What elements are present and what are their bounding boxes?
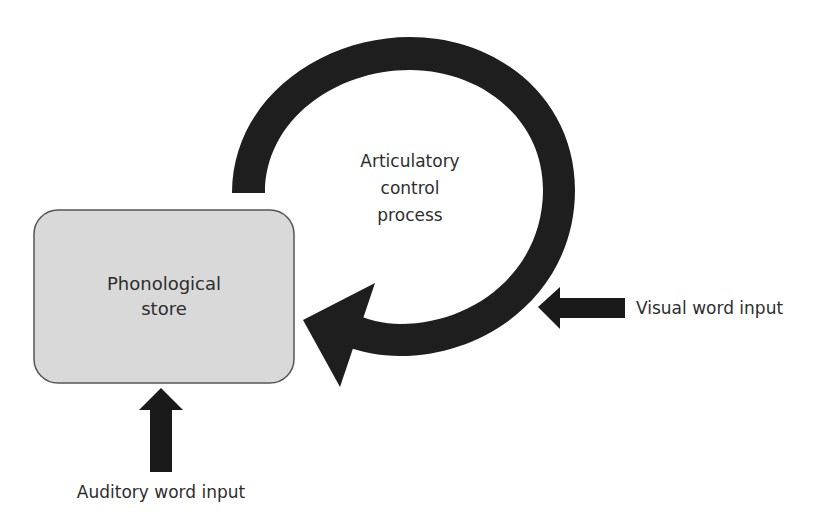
visual-word-input-label: Visual word input (636, 295, 783, 321)
store-label-line1: Phonological (33, 271, 295, 296)
visual-input-arrow-icon (538, 287, 625, 329)
phonological-store-label: Phonological store (33, 271, 295, 321)
loop-label-line3: process (340, 202, 480, 229)
articulatory-control-label: Articulatory control process (340, 148, 480, 229)
store-label-line2: store (33, 296, 295, 321)
diagram-canvas (0, 0, 830, 525)
loop-label-line1: Articulatory (340, 148, 480, 175)
loop-label-line2: control (340, 175, 480, 202)
auditory-word-input-label: Auditory word input (77, 479, 245, 505)
auditory-input-arrow-icon (139, 388, 183, 472)
